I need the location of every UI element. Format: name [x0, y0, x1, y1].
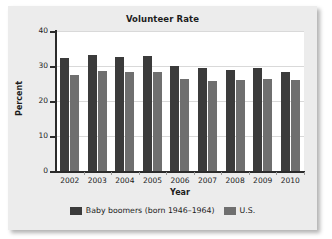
x-tick-mark	[221, 172, 222, 175]
x-tick-mark	[194, 172, 195, 175]
bar	[236, 80, 245, 171]
bar-group	[139, 31, 167, 171]
legend-entry-us: U.S.	[224, 206, 256, 215]
bar	[170, 66, 179, 171]
x-tick-mark	[166, 172, 167, 175]
x-tick-mark	[249, 172, 250, 175]
bar	[180, 79, 189, 171]
x-tick-label: 2010	[274, 176, 306, 185]
y-axis-label: Percent	[15, 64, 24, 134]
bar-group	[84, 31, 112, 171]
bar	[143, 56, 152, 171]
y-tick-mark	[50, 31, 55, 33]
x-axis-line	[55, 171, 305, 173]
bar-group	[56, 31, 84, 171]
y-tick-mark	[50, 136, 55, 138]
bar	[226, 70, 235, 172]
bar-group	[111, 31, 139, 171]
bar-group	[276, 31, 304, 171]
bar	[208, 81, 217, 171]
chart-legend: Baby boomers (born 1946–1964) U.S.	[8, 206, 317, 215]
y-tick-label: 0	[24, 166, 48, 175]
legend-entry-boomers: Baby boomers (born 1946–1964)	[70, 206, 215, 215]
legend-label-boomers: Baby boomers (born 1946–1964)	[86, 206, 215, 215]
y-tick-label: 10	[24, 131, 48, 140]
legend-swatch-us	[224, 207, 236, 215]
legend-swatch-boomers	[70, 207, 82, 215]
y-tick-label: 30	[24, 61, 48, 70]
y-tick-mark	[50, 171, 55, 173]
x-tick-mark	[84, 172, 85, 175]
bar-group	[194, 31, 222, 171]
bar-group	[166, 31, 194, 171]
bar	[281, 72, 290, 171]
x-axis-label: Year	[56, 188, 304, 197]
x-tick-mark	[304, 172, 305, 175]
bar	[291, 80, 300, 171]
bar	[60, 58, 69, 171]
legend-label-us: U.S.	[240, 206, 256, 215]
bar	[198, 68, 207, 171]
y-tick-mark	[50, 66, 55, 68]
bar	[98, 71, 107, 171]
chart-figure: Volunteer Rate Percent 010203040 2002200…	[8, 6, 317, 230]
bar-group	[249, 31, 277, 171]
bar	[153, 72, 162, 171]
y-tick-label: 20	[24, 96, 48, 105]
bar	[125, 72, 134, 171]
y-tick-mark	[50, 101, 55, 103]
x-tick-mark	[276, 172, 277, 175]
bar	[70, 75, 79, 171]
y-tick-label: 40	[24, 26, 48, 35]
bar	[263, 79, 272, 171]
bar-group	[221, 31, 249, 171]
x-tick-mark	[111, 172, 112, 175]
bar	[253, 68, 262, 171]
bar	[88, 55, 97, 171]
bar	[115, 57, 124, 171]
x-tick-mark	[139, 172, 140, 175]
chart-title: Volunteer Rate	[8, 14, 317, 24]
